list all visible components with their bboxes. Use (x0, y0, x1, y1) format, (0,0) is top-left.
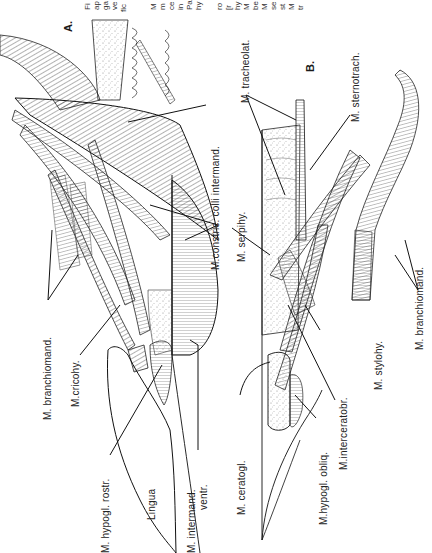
panel-a-drawing (0, 20, 218, 553)
label-ceratogl: M. ceratogl. (236, 460, 247, 515)
label-intermand: M. intermand. (186, 489, 197, 553)
label-lingua: Lingua (146, 489, 157, 520)
label-intermand-ventr: ventr. (198, 484, 209, 510)
muscle-illustration (0, 0, 432, 553)
label-hypogl-obliq: M.hypogl. obliq. (318, 452, 329, 525)
label-branchiomand-a: M. branchiomand. (42, 337, 53, 420)
label-stylohy: M. stylohy. (373, 341, 384, 390)
caption-frag: fic (120, 4, 129, 12)
label-interceratobr: M.interceratobr. (338, 397, 349, 470)
label-tracheolat: M. tracheolat. (240, 40, 251, 103)
anatomical-figure: A. B. M. branchiomand. M.cricohy. M. hyp… (0, 0, 432, 553)
panel-a-label: A. (62, 21, 74, 32)
label-branchiomand-b: M. branchiomand. (414, 267, 425, 350)
label-serpihy: M. serpihy. (236, 212, 247, 262)
caption-frag: tr (297, 5, 306, 10)
label-constric-colli: M.constric. colli intermand. (210, 146, 221, 270)
panel-b-label: B. (304, 61, 316, 72)
caption-frag: hy (195, 2, 204, 10)
label-hypogl-rostr: M. hypogl. rostr. (100, 478, 111, 553)
label-sternotrach: M. sternotrach. (350, 52, 361, 122)
label-cricohy: M.cricohy. (70, 360, 81, 407)
